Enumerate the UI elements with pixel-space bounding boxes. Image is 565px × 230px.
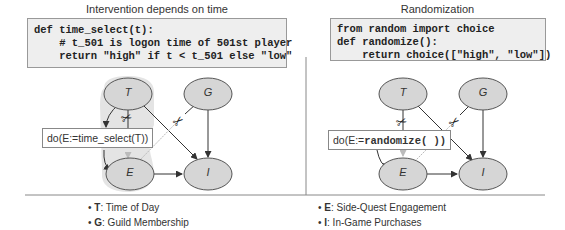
legend-label: : Time of Day bbox=[100, 202, 159, 213]
legend-item: • G: Guild Membership bbox=[88, 215, 189, 230]
node-label: G bbox=[473, 86, 493, 98]
node-label: I bbox=[198, 166, 218, 178]
node-label: G bbox=[198, 86, 218, 98]
legend-item: • I: In-Game Purchases bbox=[318, 215, 446, 230]
node-label: E bbox=[393, 166, 413, 178]
legend-label: : In-Game Purchases bbox=[327, 217, 421, 228]
legend-item: • E: Side-Quest Engagement bbox=[318, 200, 446, 215]
node-label: E bbox=[120, 166, 140, 178]
legend-left: • T: Time of Day • G: Guild Membership bbox=[88, 200, 189, 230]
do-func: time_select(T)) bbox=[78, 132, 148, 144]
legend-label: : Side-Quest Engagement bbox=[331, 202, 446, 213]
do-func: randomize( )) bbox=[364, 135, 446, 147]
left-intervention-label: do(E:=time_select(T)) bbox=[42, 128, 153, 148]
legend-key: G bbox=[94, 217, 102, 228]
legend-item: • T: Time of Day bbox=[88, 200, 189, 215]
right-intervention-label: do(E:=randomize( )) bbox=[328, 130, 451, 150]
legend-label: : Guild Membership bbox=[102, 217, 189, 228]
legend-key: E bbox=[324, 202, 331, 213]
node-label: I bbox=[473, 166, 493, 178]
causal-graphs bbox=[0, 0, 565, 230]
do-prefix: do(E:= bbox=[47, 132, 78, 144]
legend-right: • E: Side-Quest Engagement • I: In-Game … bbox=[318, 200, 446, 230]
node-label: T bbox=[118, 86, 138, 98]
node-label: T bbox=[393, 86, 413, 98]
do-prefix: do(E:= bbox=[333, 134, 364, 146]
